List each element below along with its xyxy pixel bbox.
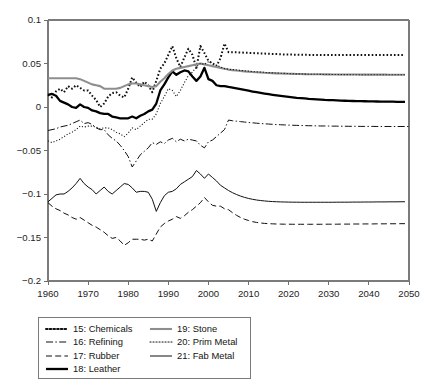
series-line-refining: [48, 120, 409, 167]
series-line-stone: [48, 64, 405, 89]
legend-label-leather: 18: Leather: [73, 363, 120, 375]
legend-label-prim-metal: 20: Prim Metal: [177, 336, 237, 348]
legend-label-rubber: 17: Rubber: [73, 350, 119, 362]
legend-swatch-prim-metal-icon: [149, 336, 173, 348]
chart-legend: 15: Chemicals16: Refining17: Rubber18: L…: [38, 317, 251, 379]
legend-swatch-chemicals-icon: [45, 323, 69, 335]
x-tick-label: 2000: [198, 288, 219, 299]
legend-swatch-stone-icon: [149, 323, 173, 335]
legend-column-2: 19: Stone20: Prim Metal21: Fab Metal: [149, 322, 246, 376]
chart-axes: 0.10.050−0.05−0.1−0.15−0.219601970198019…: [17, 14, 420, 299]
legend-column-1: 15: Chemicals16: Refining17: Rubber18: L…: [45, 322, 149, 376]
series-line-fab-metal: [48, 171, 405, 212]
legend-entry-refining[interactable]: 16: Refining: [45, 336, 149, 350]
legend-label-chemicals: 15: Chemicals: [73, 323, 132, 335]
legend-columns: 15: Chemicals16: Refining17: Rubber18: L…: [45, 322, 246, 376]
x-tick-label: 2020: [278, 288, 299, 299]
legend-entry-fab-metal[interactable]: 21: Fab Metal: [149, 349, 246, 363]
x-tick-label: 2030: [318, 288, 339, 299]
y-tick-label: 0.05: [22, 58, 41, 69]
x-tick-label: 1990: [158, 288, 179, 299]
legend-label-stone: 19: Stone: [177, 323, 217, 335]
y-tick-label: −0.1: [22, 188, 41, 199]
legend-swatch-refining-icon: [45, 336, 69, 348]
y-tick-label: 0: [36, 101, 41, 112]
x-tick-label: 2040: [358, 288, 379, 299]
x-tick-label: 1970: [77, 288, 98, 299]
legend-label-refining: 16: Refining: [73, 336, 123, 348]
legend-entry-chemicals[interactable]: 15: Chemicals: [45, 322, 149, 336]
y-tick-label: −0.05: [17, 145, 41, 156]
x-tick-label: 1960: [37, 288, 58, 299]
legend-entry-prim-metal[interactable]: 20: Prim Metal: [149, 336, 246, 350]
legend-entry-rubber[interactable]: 17: Rubber: [45, 349, 149, 363]
x-tick-label: 1980: [118, 288, 139, 299]
series-line-rubber: [48, 197, 405, 245]
chart-figure: 0.10.050−0.05−0.1−0.15−0.219601970198019…: [0, 0, 430, 390]
legend-swatch-leather-icon: [45, 363, 69, 375]
y-tick-label: −0.15: [17, 232, 41, 243]
legend-entry-leather[interactable]: 18: Leather: [45, 363, 149, 377]
chart-series-group: [48, 43, 409, 245]
y-tick-label: −0.2: [22, 275, 41, 286]
legend-entry-stone[interactable]: 19: Stone: [149, 322, 246, 336]
legend-swatch-rubber-icon: [45, 350, 69, 362]
y-tick-label: 0.1: [28, 14, 41, 25]
x-tick-label: 2010: [238, 288, 259, 299]
x-tick-label: 2050: [398, 288, 419, 299]
legend-label-fab-metal: 21: Fab Metal: [177, 350, 234, 362]
legend-swatch-fab-metal-icon: [149, 350, 173, 362]
